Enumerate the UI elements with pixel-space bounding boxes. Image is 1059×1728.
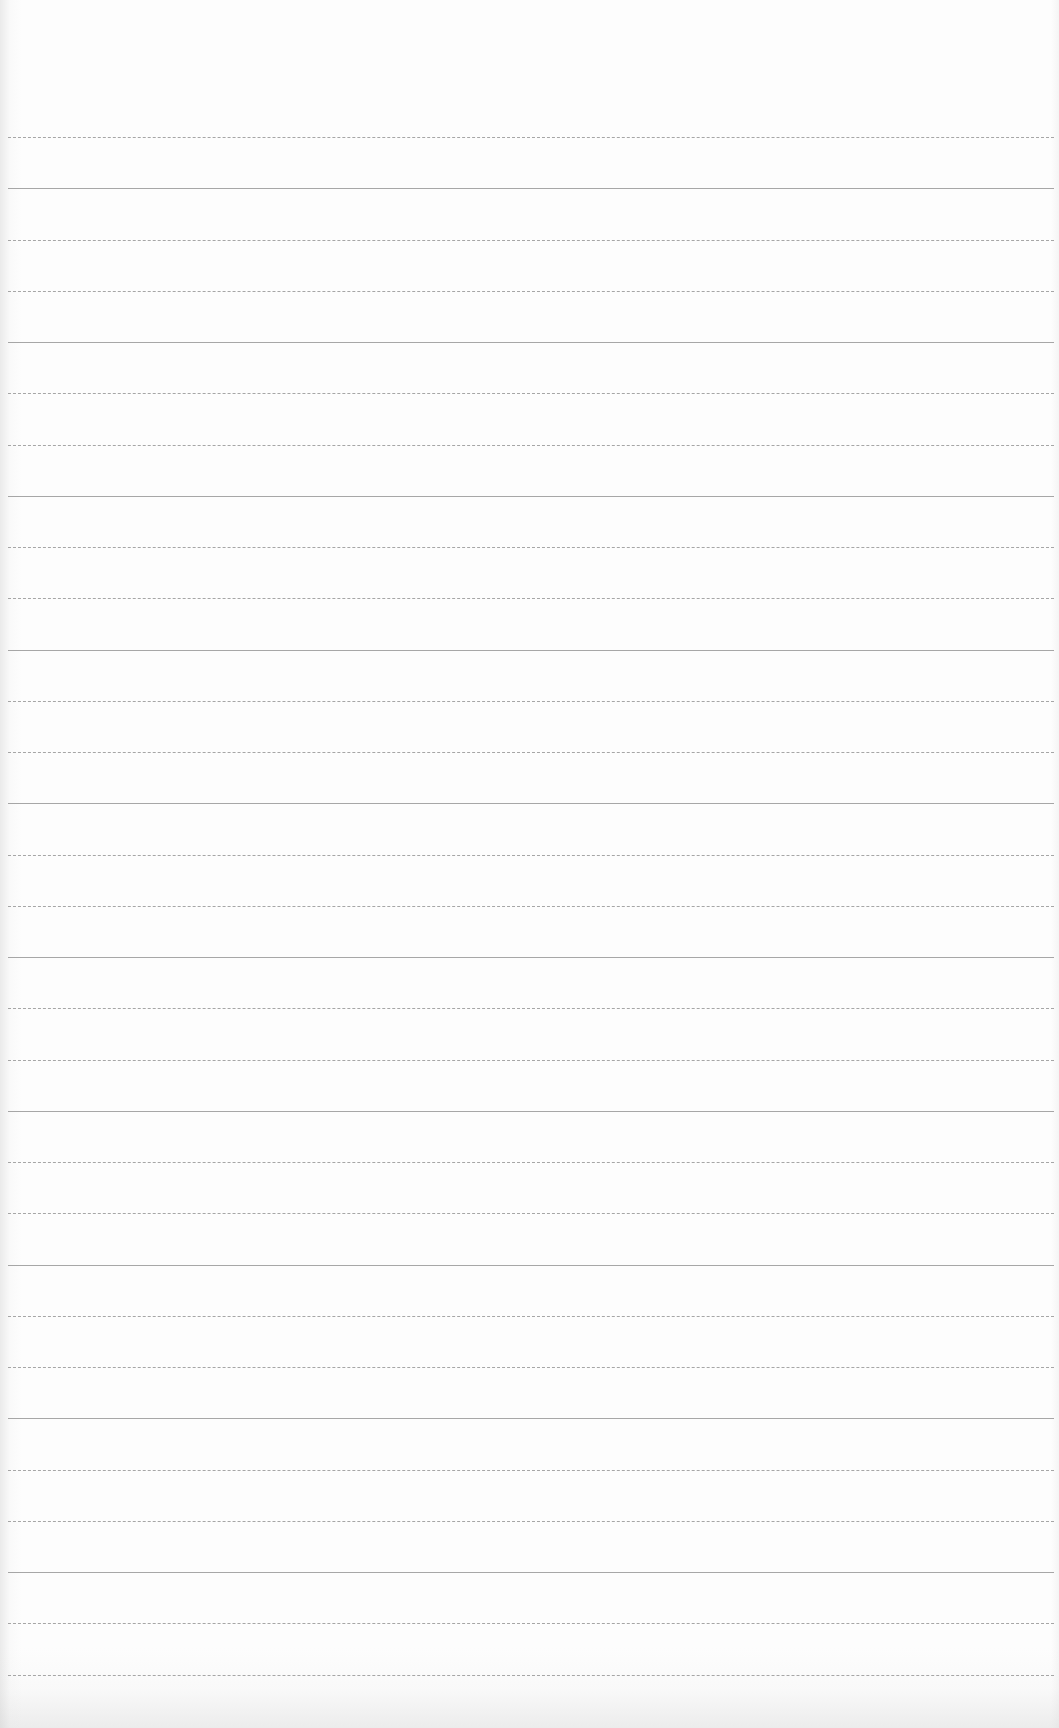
ruled-line xyxy=(8,240,1054,242)
ruled-line xyxy=(8,906,1054,908)
ruled-line xyxy=(8,855,1054,857)
ruled-line xyxy=(8,1111,1054,1113)
ruled-line xyxy=(8,1623,1054,1625)
ruled-line xyxy=(8,137,1054,139)
ruled-line xyxy=(8,650,1054,652)
ruled-line xyxy=(8,957,1054,959)
ruled-line xyxy=(8,1213,1054,1215)
ruled-line xyxy=(8,188,1054,190)
ruled-line xyxy=(8,291,1054,293)
ruled-line xyxy=(8,1572,1054,1574)
ruled-line xyxy=(8,752,1054,754)
ruled-paper-sheet xyxy=(0,0,1059,1728)
ruled-line xyxy=(8,1675,1054,1677)
ruled-line xyxy=(8,1470,1054,1472)
ruled-line xyxy=(8,1162,1054,1164)
ruled-line xyxy=(8,1008,1054,1010)
ruled-line xyxy=(8,803,1054,805)
ruled-line xyxy=(8,1060,1054,1062)
ruled-line xyxy=(8,496,1054,498)
ruled-line xyxy=(8,393,1054,395)
ruled-line xyxy=(8,1316,1054,1318)
ruled-line xyxy=(8,598,1054,600)
ruled-line xyxy=(8,342,1054,344)
ruled-line xyxy=(8,1367,1054,1369)
ruled-line xyxy=(8,701,1054,703)
ruled-line xyxy=(8,1418,1054,1420)
ruled-line xyxy=(8,445,1054,447)
ruled-line xyxy=(8,1521,1054,1523)
ruled-line xyxy=(8,547,1054,549)
ruled-line xyxy=(8,1265,1054,1267)
